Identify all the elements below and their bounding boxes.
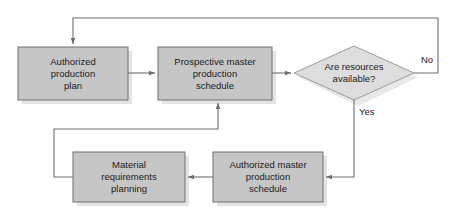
node-shape-are-resources-available: [294, 46, 414, 100]
node-shape-authorized-production-plan: [18, 47, 128, 100]
node-shape-material-requirements-planning: [73, 152, 185, 202]
node-shape-prospective-master-production-schedule: [158, 47, 272, 100]
node-shapes: [18, 46, 414, 202]
flowchart-diagram: Authorized production plan Prospective m…: [0, 0, 460, 217]
edge-label-yes: Yes: [359, 106, 375, 117]
edge-decision-yes-to-authorized-mps: [326, 100, 354, 177]
node-shape-authorized-master-production-schedule: [213, 152, 323, 202]
flowchart-canvas-svg: [0, 0, 460, 217]
edge-label-no: No: [421, 54, 433, 65]
